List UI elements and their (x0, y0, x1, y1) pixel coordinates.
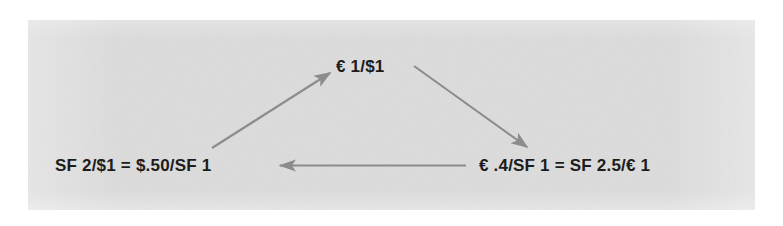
node-label-euro-franc-rate: € .4/SF 1 = SF 2.5/€ 1 (479, 157, 650, 174)
scan-texture (28, 20, 755, 210)
diagram-panel (28, 20, 755, 210)
node-label-euro-dollar-rate: € 1/$1 (336, 58, 384, 75)
node-label-franc-dollar-rate: SF 2/$1 = $.50/SF 1 (55, 157, 211, 174)
currency-triangle-figure: € 1/$1 SF 2/$1 = $.50/SF 1 € .4/SF 1 = S… (0, 0, 783, 226)
